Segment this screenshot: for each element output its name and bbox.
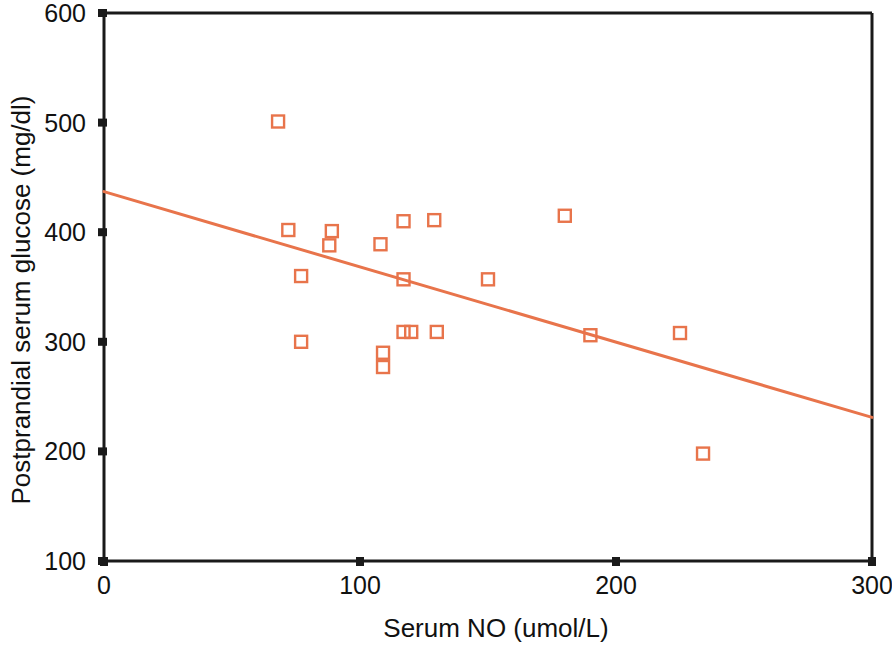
data-point-marker bbox=[323, 239, 335, 251]
data-point-marker bbox=[377, 361, 389, 373]
data-point-marker bbox=[377, 347, 389, 359]
y-tick-label: 400 bbox=[44, 218, 86, 246]
data-point-marker bbox=[674, 327, 686, 339]
y-tick-mark bbox=[98, 119, 107, 127]
y-tick-label: 200 bbox=[44, 437, 86, 465]
x-tick-label: 300 bbox=[851, 571, 892, 599]
x-tick-labels: 0100200300 bbox=[97, 571, 892, 599]
regression-line bbox=[104, 192, 872, 418]
x-tick-label: 0 bbox=[97, 571, 111, 599]
axis-lines bbox=[104, 13, 872, 561]
x-tick-mark bbox=[356, 557, 364, 566]
data-point-marker bbox=[482, 273, 494, 285]
data-point-marker bbox=[431, 326, 443, 338]
x-tick-mark bbox=[100, 557, 108, 566]
y-tick-label: 600 bbox=[44, 0, 86, 27]
regression-line-segment bbox=[104, 192, 872, 418]
data-point-marker bbox=[295, 270, 307, 282]
x-tick-label: 100 bbox=[339, 571, 381, 599]
data-point-marker bbox=[697, 448, 709, 460]
y-tick-label: 100 bbox=[44, 547, 86, 575]
data-point-marker bbox=[295, 336, 307, 348]
y-tick-mark bbox=[98, 338, 107, 346]
data-point-marker bbox=[428, 214, 440, 226]
data-points bbox=[272, 116, 709, 460]
y-axis-title: Postprandial serum glucose (mg/dl) bbox=[6, 96, 36, 505]
tick-marks bbox=[98, 9, 876, 566]
data-point-marker bbox=[398, 215, 410, 227]
y-tick-label: 500 bbox=[44, 109, 86, 137]
plot-canvas: 100200300400500600 0100200300 Serum NO (… bbox=[0, 0, 892, 661]
x-tick-mark bbox=[612, 557, 620, 566]
plot-axes bbox=[98, 9, 876, 566]
data-point-marker bbox=[398, 326, 410, 338]
data-point-marker bbox=[282, 224, 294, 236]
y-tick-labels: 100200300400500600 bbox=[44, 0, 86, 575]
y-tick-mark bbox=[98, 9, 107, 17]
data-point-marker bbox=[374, 238, 386, 250]
data-point-marker bbox=[326, 225, 338, 237]
y-tick-mark bbox=[98, 228, 107, 236]
x-tick-mark bbox=[868, 557, 876, 566]
data-point-marker bbox=[272, 116, 284, 128]
x-tick-label: 200 bbox=[595, 571, 637, 599]
y-tick-mark bbox=[98, 447, 107, 455]
data-point-marker bbox=[559, 210, 571, 222]
data-point-marker bbox=[405, 326, 417, 338]
x-axis-title: Serum NO (umol/L) bbox=[383, 613, 608, 643]
y-tick-label: 300 bbox=[44, 328, 86, 356]
scatter-plot-figure: 100200300400500600 0100200300 Serum NO (… bbox=[0, 0, 892, 661]
